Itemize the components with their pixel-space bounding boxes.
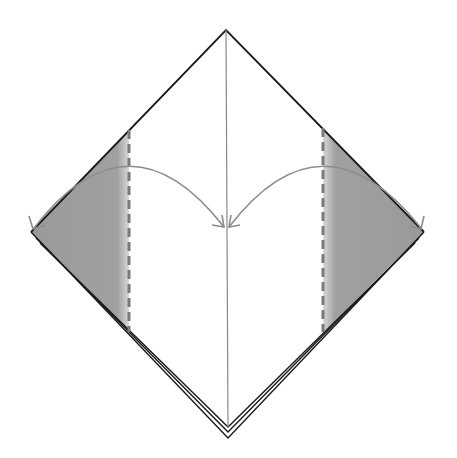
left-shaded-flap xyxy=(31,131,129,333)
right-shaded-flap xyxy=(323,129,424,333)
origami-diagram xyxy=(0,0,457,458)
